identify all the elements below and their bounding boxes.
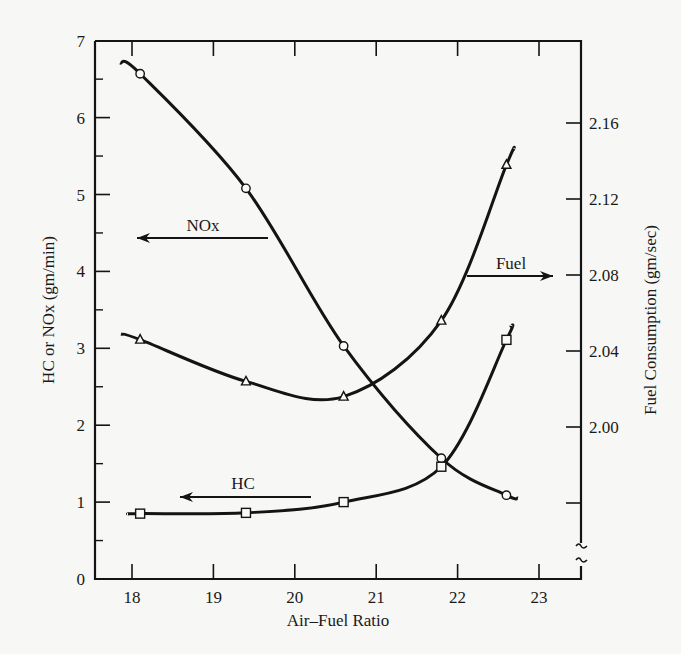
series-curves xyxy=(120,61,518,514)
left-y-axis-ticks: 01234567 xyxy=(77,32,111,589)
y-tick-label: 1 xyxy=(77,493,86,512)
square-marker xyxy=(339,498,348,507)
series-annotations: NOxHCFuel xyxy=(137,216,553,502)
x-tick-label: 22 xyxy=(449,588,466,607)
circle-marker xyxy=(339,342,347,350)
square-marker xyxy=(437,462,446,471)
x-tick-label: 21 xyxy=(368,588,385,607)
nox-label: NOx xyxy=(186,216,220,235)
fuel-label: Fuel xyxy=(496,254,527,273)
left-y-axis-title: HC or NOx (gm/min) xyxy=(39,236,58,384)
x-tick-label: 23 xyxy=(531,588,548,607)
y2-tick-label: 2.08 xyxy=(589,266,619,285)
circle-marker xyxy=(502,491,510,499)
y-tick-label: 0 xyxy=(77,570,86,589)
y-tick-label: 4 xyxy=(77,262,86,281)
hc-curve xyxy=(127,325,512,514)
x-tick-label: 18 xyxy=(124,588,141,607)
nox-curve xyxy=(120,61,518,499)
circle-marker xyxy=(437,454,445,462)
x-axis-ticks: 181920212223 xyxy=(124,41,548,607)
y-tick-label: 6 xyxy=(77,109,86,128)
y-tick-label: 5 xyxy=(77,186,86,205)
square-marker xyxy=(502,335,511,344)
fuel-curve xyxy=(121,147,514,400)
y2-tick-label: 2.00 xyxy=(589,418,619,437)
square-marker xyxy=(241,508,250,517)
x-axis-title: Air–Fuel Ratio xyxy=(287,611,389,630)
square-marker xyxy=(136,509,145,518)
y2-tick-label: 2.16 xyxy=(589,114,619,133)
y-tick-label: 2 xyxy=(77,416,86,435)
dual-axis-line-chart: 181920212223 01234567 2.002.042.082.122.… xyxy=(0,0,681,654)
y-tick-label: 3 xyxy=(77,339,86,358)
x-tick-label: 20 xyxy=(286,588,303,607)
axis-break-icon xyxy=(576,544,587,562)
hc-label: HC xyxy=(231,474,255,493)
y-tick-label: 7 xyxy=(77,32,86,51)
right-y-axis-ticks: 2.002.042.082.122.16 xyxy=(566,114,619,503)
x-tick-label: 19 xyxy=(205,588,222,607)
right-y-axis-title: Fuel Consumption (gm/sec) xyxy=(641,225,660,415)
circle-marker xyxy=(242,184,250,192)
circle-marker xyxy=(136,70,144,78)
y2-tick-label: 2.12 xyxy=(589,190,619,209)
y2-tick-label: 2.04 xyxy=(589,342,619,361)
